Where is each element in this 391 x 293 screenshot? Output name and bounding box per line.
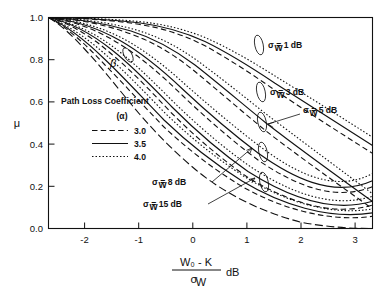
legend-entry-4-0: 4.0 [92,152,146,162]
annotation-sigma-15db-subscript: W [150,202,159,212]
y-tick-label: 0.2 [30,181,43,192]
ellipse-sigma8 [257,141,269,162]
annotation-sigma-8db-subscript: W [159,180,168,190]
x-tick-label: -2 [80,234,88,245]
legend-label-3-0: 3.0 [134,126,146,136]
annotation-sigma-3db-subscript: W [277,90,286,100]
annotation-sigma-8db: σ = 8 dB W [152,177,186,190]
annotation-leaders [208,114,300,204]
x-axis-title-denominator-subscript: W [196,276,207,288]
annotation-sigma-3db-text: σ = 3 dB [270,87,304,97]
y-axis-ticks [49,18,55,229]
x-axis-title-numerator: W₀ - K [180,256,213,268]
x-tick-label: -1 [134,234,142,245]
y-tick-label: 0.4 [30,139,43,150]
legend-entry-3-0: 3.0 [92,126,146,136]
annotation-sigma-15db: σ = 15 dB W [143,199,182,212]
x-tick-label: 2 [298,234,303,245]
x-tick-label: 0 [190,234,195,245]
annotation-sigma-1db-subscript: W [275,43,284,53]
x-tick-label: 3 [352,234,357,245]
annotation-sigma-1db-text: σ = 1 dB [268,40,302,50]
legend: Path Loss Coefficient (α) 3.0 3.5 4.0 [61,96,149,162]
annotation-sigma-5db-subscript: W [310,108,319,118]
y-tick-label: 0.8 [30,54,43,65]
y-tick-label: 0.0 [30,223,43,234]
annotation-sigma-8db-text: σ = 8 dB [152,177,186,187]
legend-alpha-symbol: (α) [116,111,127,121]
x-axis-title: W₀ - K σ W dB [172,256,239,288]
annotation-beta-label: β [109,57,117,69]
legend-entry-3-5: 3.5 [92,139,146,149]
annotation-sigma-5db-text: σ = 5 dB [303,105,337,115]
legend-label-4-0: 4.0 [134,152,146,162]
figure-mu-vs-normalized-margin: 0.0 0.2 0.4 0.6 0.8 1.0 μ -2 -1 0 1 2 3 [0,0,391,293]
ellipse-sigma3 [255,81,267,102]
annotation-sigma-1db: σ = 1 dB W [268,40,302,53]
legend-label-3-5: 3.5 [134,139,146,149]
x-tick-label: 1 [244,234,249,245]
annotation-sigma-5db: σ = 5 dB W [303,105,337,118]
chart-svg: 0.0 0.2 0.4 0.6 0.8 1.0 μ -2 -1 0 1 2 3 [0,0,391,293]
y-axis-tick-labels: 0.0 0.2 0.4 0.6 0.8 1.0 [30,12,43,234]
ellipse-sigma1 [253,34,265,55]
y-tick-label: 0.6 [30,96,43,107]
curve-sigma1-alpha3 [49,18,373,154]
x-axis-tick-labels: -2 -1 0 1 2 3 [80,234,357,245]
curve-group [49,18,373,229]
y-tick-label: 1.0 [30,12,43,23]
leader-sigma15 [208,178,255,204]
y-axis-title: μ [14,117,20,129]
x-axis-title-unit: dB [226,266,239,278]
x-axis-ticks [85,223,356,229]
legend-title: Path Loss Coefficient [61,96,149,106]
